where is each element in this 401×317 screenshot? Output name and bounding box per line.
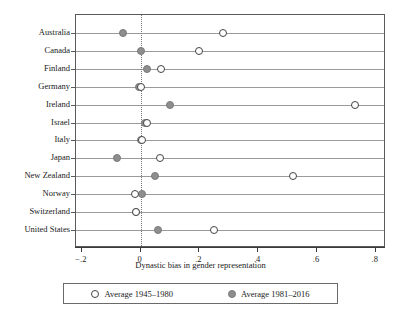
y-axis-tick <box>71 87 76 88</box>
data-point-filled-united-states <box>154 226 162 234</box>
y-axis-label-germany: Germany <box>38 81 70 90</box>
y-axis-label-switzerland: Switzerland <box>29 207 70 216</box>
x-axis-tick <box>140 247 141 252</box>
data-point-open-ireland <box>351 101 359 109</box>
row-gridline <box>76 230 384 231</box>
row-gridline <box>76 194 384 195</box>
y-axis-tick <box>71 69 76 70</box>
filled-circle-icon <box>228 290 236 298</box>
x-axis-tick <box>257 247 258 252</box>
row-gridline <box>76 51 384 52</box>
row-gridline <box>76 123 384 124</box>
data-point-open-finland <box>157 65 165 73</box>
data-point-filled-ireland <box>166 101 174 109</box>
chart-legend: Average 1945–1980Average 1981–2016 <box>63 283 338 304</box>
data-point-filled-new-zealand <box>151 172 159 180</box>
row-gridline <box>76 105 384 106</box>
row-gridline <box>76 87 384 88</box>
y-axis-tick <box>71 194 76 195</box>
y-axis-tick <box>71 51 76 52</box>
row-gridline <box>76 140 384 141</box>
y-axis-tick <box>71 230 76 231</box>
legend-label: Average 1981–2016 <box>241 289 310 299</box>
y-axis-label-united-states: United States <box>24 225 70 234</box>
data-point-open-israel <box>143 119 151 127</box>
y-axis-tick <box>71 158 76 159</box>
y-axis-tick <box>71 33 76 34</box>
x-axis-tick <box>316 247 317 252</box>
y-axis-label-israel: Israel <box>51 117 70 126</box>
chart-figure: AustraliaCanadaFinlandGermanyIrelandIsra… <box>0 0 401 317</box>
data-point-filled-japan <box>113 154 121 162</box>
y-axis-label-new-zealand: New Zealand <box>24 171 70 180</box>
legend-entry: Average 1945–1980 <box>91 289 173 299</box>
y-axis-label-finland: Finland <box>44 64 70 73</box>
y-axis-label-canada: Canada <box>45 46 71 55</box>
row-gridline <box>76 212 384 213</box>
y-axis-tick <box>71 212 76 213</box>
x-axis-tick <box>81 247 82 252</box>
x-axis-title: Dynastic bias in gender representation <box>0 260 401 270</box>
y-axis-label-italy: Italy <box>54 135 70 144</box>
data-point-open-new-zealand <box>289 172 297 180</box>
x-axis-tick <box>198 247 199 252</box>
y-axis-label-japan: Japan <box>51 153 70 162</box>
y-axis-tick <box>71 105 76 106</box>
data-point-open-australia <box>219 29 227 37</box>
data-point-filled-australia <box>119 29 127 37</box>
data-point-open-norway <box>131 190 139 198</box>
y-axis-label-norway: Norway <box>43 189 70 198</box>
y-axis-tick <box>71 176 76 177</box>
row-gridline <box>76 176 384 177</box>
row-gridline <box>76 158 384 159</box>
data-point-open-germany <box>137 83 145 91</box>
legend-label: Average 1945–1980 <box>104 289 173 299</box>
y-axis-label-australia: Australia <box>39 28 70 37</box>
y-axis-tick <box>71 123 76 124</box>
legend-entry: Average 1981–2016 <box>228 289 310 299</box>
data-point-open-switzerland <box>132 208 140 216</box>
data-point-open-canada <box>195 47 203 55</box>
plot-area <box>75 14 385 247</box>
row-gridline <box>76 69 384 70</box>
data-point-open-united-states <box>210 226 218 234</box>
y-axis-tick <box>71 140 76 141</box>
data-point-filled-canada <box>137 47 145 55</box>
data-point-filled-norway <box>138 190 146 198</box>
y-axis-label-ireland: Ireland <box>46 99 70 108</box>
x-axis <box>75 247 385 248</box>
x-axis-tick <box>375 247 376 252</box>
open-circle-icon <box>91 290 99 298</box>
data-point-open-japan <box>156 154 164 162</box>
data-point-filled-finland <box>143 65 151 73</box>
data-point-open-italy <box>138 136 146 144</box>
